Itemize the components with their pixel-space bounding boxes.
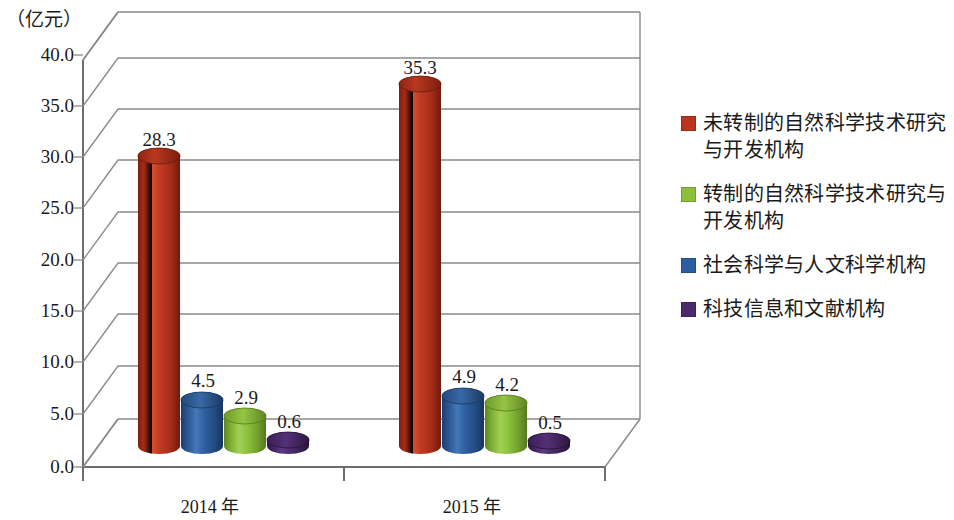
- legend-item-2[interactable]: 社会科学与人文科学机构: [681, 252, 951, 279]
- y-tick-30: 30.0: [8, 147, 74, 166]
- y-tick-20: 20.0: [8, 250, 74, 269]
- value-label-2015-purple: 0.5: [513, 413, 587, 432]
- bar-2015-series-blue: [442, 388, 484, 454]
- value-label-2015-green: 4.2: [470, 375, 544, 394]
- legend-swatch-icon-3: [681, 302, 696, 317]
- x-axis-ticks: [83, 467, 605, 481]
- x-tick-2014: 2014 年: [150, 492, 270, 518]
- legend-item-3[interactable]: 科技信息和文献机构: [681, 296, 951, 323]
- value-label-2014-red: 28.3: [122, 130, 196, 149]
- legend-swatch-icon-1: [681, 187, 696, 202]
- legend-label-1: 转制的自然科学技术研究与开发机构: [703, 181, 951, 235]
- y-tick-25: 25.0: [8, 198, 74, 217]
- y-tick-5: 5.0: [8, 404, 74, 423]
- bar-2014-series-red: [138, 148, 180, 454]
- legend-item-0[interactable]: 未转制的自然科学技术研究与开发机构: [681, 110, 951, 164]
- legend-swatch-icon-0: [681, 116, 696, 131]
- legend-item-1[interactable]: 转制的自然科学技术研究与开发机构: [681, 181, 951, 235]
- y-tick-40: 40.0: [8, 45, 74, 64]
- x-tick-2015: 2015 年: [412, 492, 532, 518]
- y-tick-10: 10.0: [8, 352, 74, 371]
- chart-legend: 未转制的自然科学技术研究与开发机构 转制的自然科学技术研究与开发机构 社会科学与…: [681, 110, 951, 340]
- bar-2014-series-purple: [267, 432, 309, 454]
- legend-swatch-icon-2: [681, 258, 696, 273]
- value-label-2014-green: 2.9: [209, 388, 283, 407]
- legend-label-2: 社会科学与人文科学机构: [703, 252, 926, 279]
- y-tick-35: 35.0: [8, 96, 74, 115]
- chart-container: （亿元）: [0, 0, 954, 520]
- value-label-2015-red: 35.3: [383, 58, 457, 77]
- bar-2015-series-red: [399, 76, 441, 454]
- y-tick-15: 15.0: [8, 301, 74, 320]
- y-tick-0: 0.0: [8, 457, 74, 476]
- value-label-2014-purple: 0.6: [252, 412, 326, 431]
- legend-label-0: 未转制的自然科学技术研究与开发机构: [703, 110, 951, 164]
- legend-label-3: 科技信息和文献机构: [703, 296, 886, 323]
- bar-2015-series-purple: [528, 433, 570, 454]
